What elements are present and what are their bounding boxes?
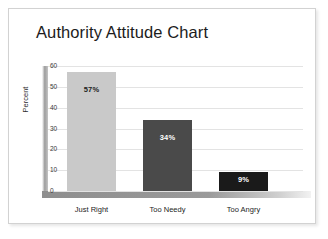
y-tick-label: 10: [50, 167, 57, 174]
bar-just-right[interactable]: 57%: [67, 72, 116, 191]
x-tick-label: Just Right: [59, 205, 124, 214]
y-tick-label: 40: [50, 105, 57, 112]
y-tick-label: 50: [50, 84, 57, 91]
x-axis-baseline: [42, 191, 311, 198]
chart-title: Authority Attitude Chart: [36, 23, 208, 42]
plot-area: 0102030405060 57%34%9%: [42, 66, 303, 191]
bar-too-angry[interactable]: 9%: [219, 172, 268, 191]
chart-card: Authority Attitude Chart Percent 0102030…: [8, 8, 316, 224]
gridline: [48, 66, 303, 67]
y-axis-title: Percent: [21, 70, 30, 130]
x-tick-label: Too Needy: [135, 205, 200, 214]
bar-value-label: 9%: [219, 175, 268, 184]
y-tick-label: 60: [50, 63, 57, 70]
x-tick-label: Too Angry: [211, 205, 276, 214]
gridline: [48, 191, 303, 192]
y-tick-label: 0: [50, 188, 54, 195]
bar-too-needy[interactable]: 34%: [143, 120, 192, 191]
bar-value-label: 34%: [143, 133, 192, 142]
bar-value-label: 57%: [67, 85, 116, 94]
y-tick-label: 20: [50, 146, 57, 153]
y-tick-label: 30: [50, 126, 57, 133]
